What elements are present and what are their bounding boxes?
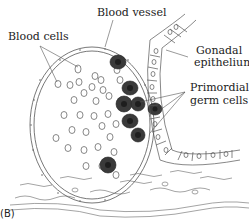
panel-label: (B) <box>0 208 15 220</box>
label-gonadal-epithelium-2: epithelium <box>194 57 249 69</box>
label-blood-vessel: Blood vessel <box>97 7 166 19</box>
primordial-germ-cells <box>100 55 162 173</box>
label-blood-cells: Blood cells <box>8 31 69 43</box>
label-primordial-germ-cells-1: Primordial <box>190 82 249 94</box>
label-primordial-germ-cells-2: germ cells <box>190 95 248 107</box>
